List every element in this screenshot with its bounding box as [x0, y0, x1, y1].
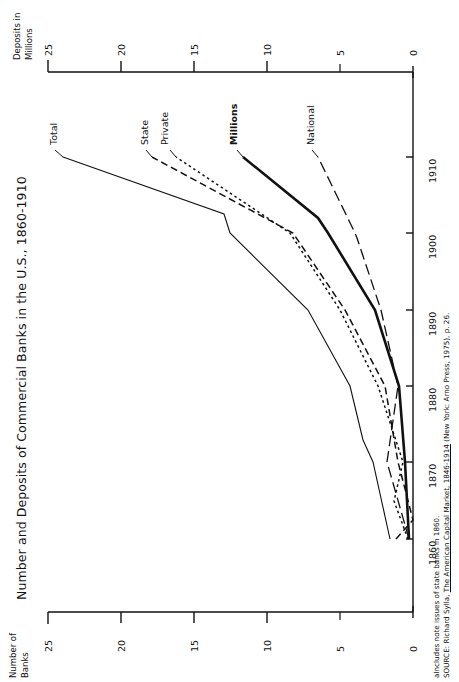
year-tick-1870: 1870	[427, 464, 438, 488]
series-label-total: Total	[48, 123, 59, 145]
footnote-note: aIncludes note issues of state banks in …	[432, 516, 441, 678]
footnote-source-title: The American Capital Market, 1846-1914	[442, 444, 451, 592]
series-label-national: National	[305, 105, 316, 145]
series-line-private	[176, 157, 408, 539]
year-tick-1890: 1890	[427, 312, 438, 336]
series-line-national	[318, 157, 409, 539]
top-tick-20: 20	[116, 44, 127, 56]
year-tick-1910: 1910	[427, 159, 438, 183]
label-leaders	[55, 150, 318, 157]
top-tick-5: 5	[335, 50, 346, 56]
bottom-tick-10: 10	[262, 640, 273, 652]
footnote-source: SOURCE: Richard Sylla, The American Capi…	[442, 313, 451, 678]
year-tick-1900: 1900	[427, 235, 438, 259]
bottom-tick-15: 15	[189, 640, 200, 652]
footnote-source-suffix: (New York: Arno Press, 1975), p. 26.	[442, 313, 451, 444]
footnote-source-prefix: SOURCE: Richard Sylla,	[442, 592, 451, 678]
top-tick-0: 0	[408, 50, 419, 56]
bottom-tick-25: 25	[43, 640, 54, 652]
top-axis	[48, 60, 413, 78]
bottom-tick-0: 0	[408, 646, 419, 652]
series-label-millions: Millions	[228, 104, 239, 145]
series-label-private: Private	[159, 112, 170, 145]
top-tick-25: 25	[43, 44, 54, 56]
bottom-tick-5: 5	[335, 646, 346, 652]
series-line-state	[152, 157, 413, 539]
top-tick-15: 15	[189, 44, 200, 56]
series-line-millions	[243, 157, 409, 539]
chart-plot	[0, 0, 459, 682]
series-line-total	[63, 157, 390, 539]
series-label-state: State	[139, 120, 150, 145]
bottom-axis	[48, 606, 413, 624]
top-tick-10: 10	[262, 44, 273, 56]
year-tick-1880: 1880	[427, 388, 438, 412]
bottom-tick-20: 20	[116, 640, 127, 652]
